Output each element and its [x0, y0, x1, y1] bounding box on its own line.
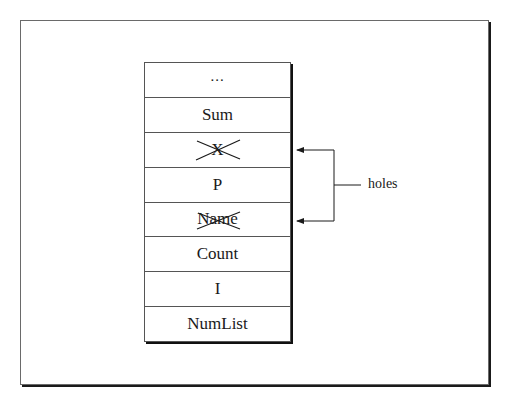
stack-cell-label: Count	[197, 244, 239, 264]
stack-cell-label: Sum	[202, 105, 233, 125]
stack-cell-name-crossed: Name	[145, 202, 290, 237]
stack-cell-label: X	[211, 140, 223, 160]
stack-cell-label: P	[213, 175, 222, 195]
holes-label: holes	[368, 176, 398, 192]
stack-cell-p: P	[145, 167, 290, 202]
stack-cell-numlist: NumList	[145, 306, 290, 341]
stack-cell-i: I	[145, 271, 290, 306]
stack-cell-x-crossed: X	[145, 132, 290, 167]
stack-cell-label: NumList	[187, 314, 247, 334]
stack-cell-count: Count	[145, 236, 290, 271]
stack-cell-label: I	[215, 279, 221, 299]
stack-cell-ellipsis: ...	[145, 63, 290, 97]
stack-cell-label: ...	[210, 68, 224, 85]
memory-stack: ... Sum X P Name Count I NumList	[144, 62, 291, 342]
stack-cell-label: Name	[197, 209, 238, 229]
stack-cell-sum: Sum	[145, 97, 290, 132]
